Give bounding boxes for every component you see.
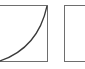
ease-curve [0,6,47,61]
right-panel-frame [64,5,85,62]
